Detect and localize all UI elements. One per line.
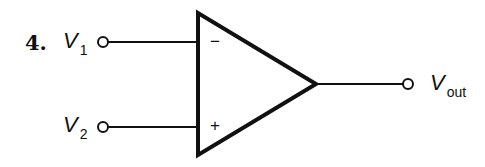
v1-label: V1 — [63, 30, 87, 52]
v2-symbol: V — [63, 112, 78, 137]
vout-label: Vout — [430, 72, 466, 94]
problem-number: 4. — [25, 32, 47, 53]
v1-subscript: 1 — [80, 42, 88, 58]
vout-symbol: V — [430, 70, 445, 95]
op-amp-diagram: 4. V1 V2 − + Vout — [0, 0, 485, 167]
v2-terminal — [98, 122, 108, 132]
v1-symbol: V — [63, 28, 78, 53]
noninverting-sign: + — [210, 117, 220, 134]
v1-terminal — [98, 37, 108, 47]
v2-label: V2 — [63, 114, 87, 136]
v2-subscript: 2 — [80, 126, 88, 142]
op-amp-schematic — [0, 0, 485, 167]
vout-subscript: out — [447, 84, 466, 100]
output-terminal — [403, 79, 413, 89]
inverting-sign: − — [210, 33, 220, 50]
